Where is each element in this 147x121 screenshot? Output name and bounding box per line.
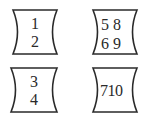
box-4-line-1: 710 xyxy=(100,83,123,99)
concave-box-4: 710 xyxy=(91,66,139,114)
concave-box-2: 5 8 6 9 xyxy=(91,8,139,56)
box-1-line-1: 1 xyxy=(31,16,39,32)
concave-box-3: 3 4 xyxy=(9,66,59,114)
box-1-line-2: 2 xyxy=(31,34,39,50)
box-2-line-2: 6 9 xyxy=(101,36,121,52)
box-3-line-1: 3 xyxy=(30,74,38,90)
box-2-line-1: 5 8 xyxy=(101,17,121,33)
box-3-line-2: 4 xyxy=(30,92,38,108)
concave-box-1: 1 2 xyxy=(11,8,59,56)
